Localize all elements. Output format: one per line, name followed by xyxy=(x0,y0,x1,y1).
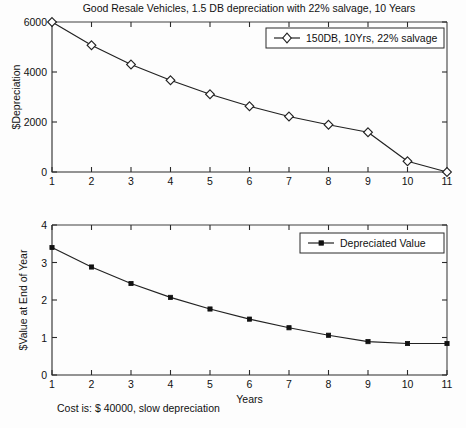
x-tick-label-bottom-2: 2 xyxy=(89,378,95,390)
x-tick-label-bottom-1: 1 xyxy=(49,378,55,390)
x-tick-label-bottom-5: 5 xyxy=(207,378,213,390)
legend-label-top: 150DB, 10Yrs, 22% salvage xyxy=(306,32,437,44)
y-tick-label-bottom-2: 2 xyxy=(41,294,47,306)
value-chart: 0 1 2 3 4 xyxy=(17,219,453,405)
x-tick-label-bottom-9: 9 xyxy=(365,378,371,390)
data-point-marker xyxy=(87,41,96,50)
figure-canvas: Good Resale Vehicles, 1.5 DB depreciatio… xyxy=(0,0,466,428)
data-point-marker xyxy=(89,265,93,269)
y-tick-label-bottom-0: 0 xyxy=(41,369,47,381)
x-tick-label-top-7: 7 xyxy=(286,175,292,187)
legend-label-bottom: Depreciated Value xyxy=(340,237,426,249)
x-tick-label-top-2: 2 xyxy=(89,175,95,187)
depreciation-chart: 0 2000 4000 6000 xyxy=(10,16,453,187)
data-point-marker xyxy=(129,281,133,285)
data-point-marker xyxy=(206,90,215,99)
data-point-marker xyxy=(127,60,136,69)
x-tick-label-top-1: 1 xyxy=(49,175,55,187)
data-point-marker xyxy=(287,326,291,330)
plot-figure: Good Resale Vehicles, 1.5 DB depreciatio… xyxy=(0,0,466,428)
legend-dot-icon xyxy=(319,241,323,245)
data-point-marker xyxy=(405,341,409,345)
data-point-marker xyxy=(166,76,175,85)
x-tick-label-bottom-3: 3 xyxy=(128,378,134,390)
data-point-marker xyxy=(403,157,412,166)
series-depreciated-value xyxy=(50,245,449,345)
x-tick-label-bottom-10: 10 xyxy=(402,378,414,390)
y-tick-label-top-0: 0 xyxy=(41,166,47,178)
data-point-marker xyxy=(324,120,333,129)
x-tick-label-top-6: 6 xyxy=(247,175,253,187)
data-point-marker xyxy=(245,102,254,111)
x-tick-label-top-4: 4 xyxy=(168,175,174,187)
x-tick-label-bottom-6: 6 xyxy=(247,378,253,390)
data-point-marker xyxy=(168,295,172,299)
y-tick-label-top-1: 2000 xyxy=(24,116,48,128)
data-point-marker xyxy=(247,317,251,321)
figure-title: Good Resale Vehicles, 1.5 DB depreciatio… xyxy=(83,2,416,14)
y-axis-title-bottom: $Value at End of Year xyxy=(17,249,29,350)
x-tick-label-top-5: 5 xyxy=(207,175,213,187)
y-axis-title-top: $Depreciation xyxy=(10,64,22,129)
y-tick-label-top-2: 4000 xyxy=(24,66,48,78)
legend-depreciation[interactable]: 150DB, 10Yrs, 22% salvage xyxy=(266,28,444,48)
data-point-marker xyxy=(364,128,373,137)
x-tick-label-top-8: 8 xyxy=(326,175,332,187)
x-tick-label-top-3: 3 xyxy=(128,175,134,187)
legend-value[interactable]: Depreciated Value xyxy=(300,233,444,253)
y-tick-label-bottom-3: 3 xyxy=(41,257,47,269)
x-tick-label-top-10: 10 xyxy=(402,175,414,187)
x-tick-label-bottom-7: 7 xyxy=(286,378,292,390)
data-point-marker xyxy=(445,341,449,345)
cost-annotation: Cost is: $ 40000, slow depreciation xyxy=(57,402,220,414)
data-point-marker xyxy=(366,340,370,344)
data-point-marker xyxy=(285,112,294,121)
x-tick-label-bottom-4: 4 xyxy=(168,378,174,390)
y-tick-label-bottom-4: 4 xyxy=(41,219,47,231)
data-point-marker xyxy=(208,307,212,311)
data-point-marker xyxy=(48,18,57,27)
x-tick-label-top-9: 9 xyxy=(365,175,371,187)
x-axis-title-bottom: Years xyxy=(236,393,262,405)
x-tick-label-bottom-11: 11 xyxy=(442,378,453,390)
data-point-marker xyxy=(326,333,330,337)
y-tick-label-top-3: 6000 xyxy=(24,16,48,28)
y-tick-label-bottom-1: 1 xyxy=(41,332,47,344)
x-tick-label-bottom-8: 8 xyxy=(326,378,332,390)
data-point-marker xyxy=(50,245,54,249)
